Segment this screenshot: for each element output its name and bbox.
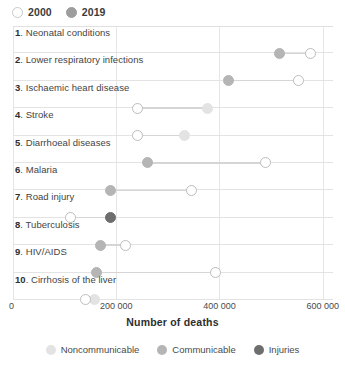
- year-legend-item-2000[interactable]: 2000: [12, 6, 52, 18]
- chart-plot-area: 1. Neonatal conditions2. Lower respirato…: [13, 26, 333, 300]
- chart-row[interactable]: 5. Diarrhoeal diseases: [13, 136, 333, 163]
- row-label: 3. Ischaemic heart disease: [15, 82, 129, 93]
- row-label: 6. Malaria: [15, 164, 57, 175]
- chart-row[interactable]: 4. Stroke: [13, 108, 333, 135]
- chart-row[interactable]: 8. Tuberculosis: [13, 218, 333, 245]
- chart-row[interactable]: 10. Cirrhosis of the liver: [13, 273, 333, 300]
- row-label: 7. Road injury: [15, 191, 74, 202]
- chart-row[interactable]: 1. Neonatal conditions: [13, 26, 333, 53]
- chart-row[interactable]: 2. Lower respiratory infections: [13, 53, 333, 80]
- x-axis-label: Number of deaths: [0, 316, 345, 328]
- category-legend: NoncommunicableCommunicableInjuries: [0, 344, 345, 355]
- circle-filled-icon: [254, 345, 264, 355]
- row-label: 9. HIV/AIDS: [15, 246, 67, 257]
- category-legend-item-communicable[interactable]: Communicable: [157, 344, 235, 355]
- year-legend-label: 2019: [82, 6, 106, 18]
- row-label: 8. Tuberculosis: [15, 219, 80, 230]
- row-label: 1. Neonatal conditions: [15, 27, 110, 38]
- row-label: 4. Stroke: [15, 109, 53, 120]
- category-legend-label: Noncommunicable: [61, 344, 140, 355]
- x-tick-label: 600 000: [306, 301, 339, 311]
- row-label: 2. Lower respiratory infections: [15, 54, 143, 65]
- circle-filled-icon: [46, 345, 56, 355]
- year-legend: 20002019: [12, 4, 106, 20]
- category-legend-label: Communicable: [172, 344, 235, 355]
- circle-filled-icon: [157, 345, 167, 355]
- circle-filled-icon: [66, 7, 77, 18]
- category-legend-item-noncommunicable[interactable]: Noncommunicable: [46, 344, 140, 355]
- chart-row[interactable]: 3. Ischaemic heart disease: [13, 81, 333, 108]
- category-legend-label: Injuries: [269, 344, 300, 355]
- x-tick-label: 400 000: [203, 301, 236, 311]
- row-label: 10. Cirrhosis of the liver: [15, 274, 116, 285]
- category-legend-item-injuries[interactable]: Injuries: [254, 344, 300, 355]
- row-baseline: [13, 299, 333, 300]
- chart-row[interactable]: 7. Road injury: [13, 190, 333, 217]
- year-legend-item-2019[interactable]: 2019: [66, 6, 106, 18]
- year-legend-label: 2000: [28, 6, 52, 18]
- x-axis-ticks: 0200 000400 000600 000: [0, 301, 345, 315]
- chart-row[interactable]: 9. HIV/AIDS: [13, 245, 333, 272]
- x-tick-label: 0: [9, 301, 14, 311]
- circle-outline-icon: [12, 7, 23, 18]
- row-label: 5. Diarrhoeal diseases: [15, 137, 111, 148]
- chart-row[interactable]: 6. Malaria: [13, 163, 333, 190]
- x-tick-label: 200 000: [100, 301, 133, 311]
